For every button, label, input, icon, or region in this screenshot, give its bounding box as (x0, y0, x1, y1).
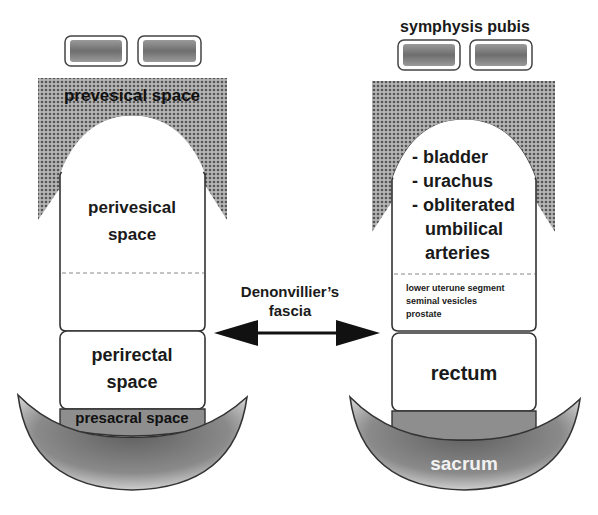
perivesical-space-label-line2: space (108, 225, 156, 244)
presacral-space-label: presacral space (75, 409, 188, 426)
perirectal-space-label: perirectal (91, 345, 172, 365)
prostate-item: prostate (406, 309, 442, 319)
uterine-segment-item: lower uterune segment (406, 283, 505, 293)
fascia-label-line1: Denonvillier’s (241, 283, 339, 300)
bladder-item: - bladder (412, 147, 488, 167)
obliterated-item: - obliterated (412, 195, 515, 215)
left-panel: prevesical space perivesical space perir… (18, 36, 247, 490)
symphysis-pubis-right (398, 40, 532, 70)
perivesical-space-label: perivesical (88, 198, 176, 217)
perivesical-space-box (60, 116, 205, 331)
umbilical-item: umbilical (425, 219, 503, 239)
double-arrow-icon (214, 320, 380, 346)
symphysis-pubis-left (65, 36, 201, 66)
rectum-label: rectum (431, 362, 498, 384)
prevesical-space-label: prevesical space (64, 86, 200, 105)
perirectal-space-box (60, 331, 205, 409)
pelvic-spaces-diagram: prevesical space perivesical space perir… (0, 0, 598, 515)
sacrum-label: sacrum (430, 453, 498, 474)
symphysis-pubis-label: symphysis pubis (400, 18, 530, 35)
right-panel: symphysis pubis - bladder - urachus - ob… (350, 18, 580, 490)
seminal-vesicles-item: seminal vesicles (406, 296, 477, 306)
fascia-label-line2: fascia (269, 302, 312, 319)
arteries-item: arteries (425, 243, 490, 263)
denonvillier-fascia-indicator: Denonvillier’s fascia (214, 283, 380, 346)
perirectal-space-label-line2: space (106, 372, 157, 392)
urachus-item: - urachus (412, 171, 493, 191)
